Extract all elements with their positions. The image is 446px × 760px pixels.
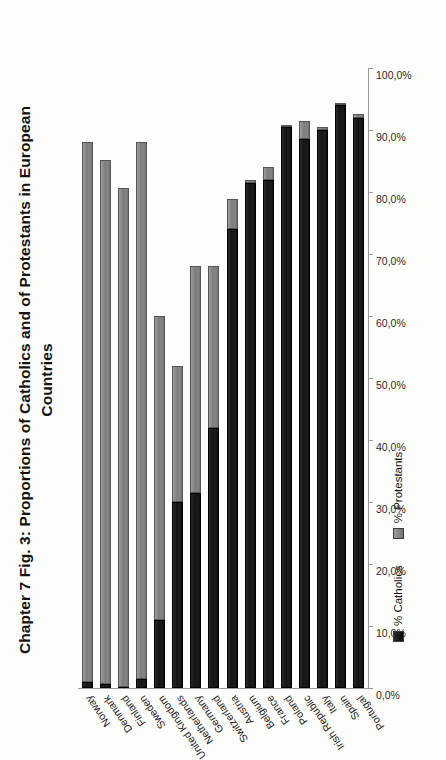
bar-row xyxy=(208,266,219,688)
bar-row xyxy=(227,199,238,688)
chart-title-line-2: Countries xyxy=(36,0,58,760)
axis-tick-label: 80,0% xyxy=(376,193,406,205)
bar-segment-catholics xyxy=(208,428,219,688)
axis-tick-label: 0,0% xyxy=(376,689,400,701)
bar-segment-catholics xyxy=(154,620,165,688)
plot-area: 100,0%90,0%80,0%70,0%60,0%50,0%40,0%30,0… xyxy=(78,69,368,689)
bar-segment-protestants xyxy=(299,121,310,140)
legend-item-catholics: % Catholics xyxy=(392,565,404,642)
bar-segment-catholics xyxy=(335,105,346,688)
bar-row xyxy=(335,103,346,688)
bar-segment-protestants xyxy=(263,167,274,179)
value-axis-line xyxy=(78,688,368,689)
bar-segment-catholics xyxy=(245,183,256,688)
bar-row xyxy=(136,142,147,688)
bar-segment-protestants xyxy=(353,114,364,118)
bar-row xyxy=(353,114,364,688)
axis-tick-label: 100,0% xyxy=(376,69,412,81)
chart-figure: Chapter 7 Fig. 3: Proportions of Catholi… xyxy=(0,0,446,760)
bar-row xyxy=(154,316,165,688)
legend-label-protestants: % Protestants xyxy=(392,452,404,524)
bar-segment-catholics xyxy=(353,118,364,688)
bar-row xyxy=(281,125,292,688)
bar-segment-catholics xyxy=(299,139,310,688)
bar-segment-protestants xyxy=(172,366,183,502)
axis-tick-label: 90,0% xyxy=(376,131,406,143)
bar-row xyxy=(263,167,274,688)
legend-item-protestants: % Protestants xyxy=(392,452,404,540)
bar-segment-catholics xyxy=(317,130,328,688)
bar-segment-protestants xyxy=(227,199,238,229)
bar-row xyxy=(118,188,129,688)
bar-segment-catholics xyxy=(172,502,183,688)
bar-segment-protestants xyxy=(100,160,111,684)
axis-baseline xyxy=(368,69,369,689)
bar-row xyxy=(317,127,328,688)
axis-tick-label: 50,0% xyxy=(376,379,406,391)
bar-segment-protestants xyxy=(190,266,201,492)
bar-segment-catholics xyxy=(263,180,274,688)
bar-segment-protestants xyxy=(281,125,292,127)
bar-segment-catholics xyxy=(281,127,292,688)
bar-row xyxy=(245,180,256,688)
bar-segment-protestants xyxy=(118,188,129,687)
rotated-figure-stage: Chapter 7 Fig. 3: Proportions of Catholi… xyxy=(0,0,446,760)
bar-segment-catholics xyxy=(227,229,238,688)
bar-segment-catholics xyxy=(100,684,111,688)
bar-row xyxy=(299,121,310,688)
bar-segment-protestants xyxy=(208,266,219,427)
bar-segment-catholics xyxy=(82,682,93,688)
chart-legend: % Catholics % Protestants xyxy=(392,452,404,642)
bar-segment-protestants xyxy=(136,142,147,678)
axis-tick-label: 60,0% xyxy=(376,317,406,329)
legend-swatch-catholics-icon xyxy=(393,631,404,642)
bar-row xyxy=(100,160,111,688)
bar-segment-protestants xyxy=(154,316,165,620)
bar-segment-catholics xyxy=(190,493,201,688)
chart-title-line-1: Chapter 7 Fig. 3: Proportions of Catholi… xyxy=(16,106,33,654)
chart-title: Chapter 7 Fig. 3: Proportions of Catholi… xyxy=(14,0,59,760)
legend-label-catholics: % Catholics xyxy=(392,565,404,626)
legend-swatch-protestants-icon xyxy=(393,528,404,539)
bar-row xyxy=(172,366,183,688)
bar-segment-protestants xyxy=(245,180,256,182)
axis-tick-label: 70,0% xyxy=(376,255,406,267)
bar-segment-protestants xyxy=(82,142,93,681)
bar-segment-protestants xyxy=(335,103,346,105)
bar-row xyxy=(190,266,201,688)
bar-segment-protestants xyxy=(317,127,328,130)
bar-row xyxy=(82,142,93,688)
bar-segment-catholics xyxy=(136,679,147,688)
